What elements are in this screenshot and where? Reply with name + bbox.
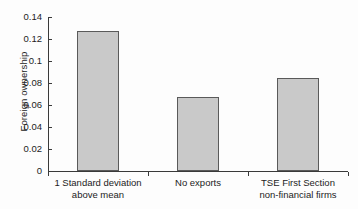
bar <box>77 31 119 171</box>
x-category-label-line: above mean <box>48 189 148 201</box>
x-category-label-line: TSE First Section <box>248 177 348 189</box>
bar-chart-figure: Foreign ownership 00.020.040.060.080.10.… <box>0 0 358 209</box>
x-tick-mark <box>148 172 149 176</box>
y-tick-mark <box>48 17 52 18</box>
y-tick-mark <box>48 61 52 62</box>
y-tick-label: 0.1 <box>29 55 42 66</box>
x-category-label: No exports <box>148 177 248 189</box>
y-tick-mark <box>48 127 52 128</box>
y-tick-label: 0.14 <box>24 11 43 22</box>
y-tick-label: 0.12 <box>24 33 43 44</box>
y-tick-label: 0.06 <box>24 99 43 110</box>
y-tick-label: 0.02 <box>24 143 43 154</box>
x-category-label-line: No exports <box>148 177 248 189</box>
bar <box>277 78 319 171</box>
y-tick-mark <box>48 39 52 40</box>
y-tick-mark <box>48 83 52 84</box>
x-category-label: TSE First Sectionnon-financial firms <box>248 177 348 200</box>
plot-area: 00.020.040.060.080.10.120.14 1 Standard … <box>48 17 348 172</box>
y-tick-mark <box>48 149 52 150</box>
x-category-label: 1 Standard deviationabove mean <box>48 177 148 200</box>
y-tick-label: 0.04 <box>24 121 43 132</box>
x-category-label-line: non-financial firms <box>248 189 348 201</box>
y-tick-label: 0 <box>37 165 42 176</box>
y-tick-label: 0.08 <box>24 77 43 88</box>
x-tick-mark <box>48 172 49 176</box>
x-tick-mark <box>248 172 249 176</box>
x-axis-line <box>48 171 348 172</box>
x-category-label-line: 1 Standard deviation <box>48 177 148 189</box>
y-tick-mark <box>48 105 52 106</box>
x-tick-mark <box>348 172 349 176</box>
bar <box>177 97 219 171</box>
